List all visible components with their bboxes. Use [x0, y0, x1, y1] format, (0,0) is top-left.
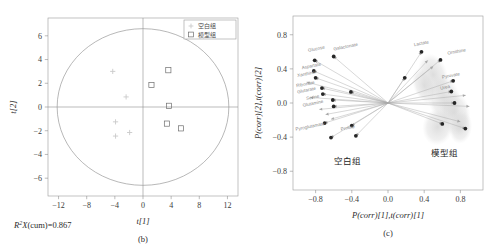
x-tick-label: 8 — [197, 201, 201, 210]
loading-point — [329, 136, 333, 140]
panel-caption: (b) — [138, 234, 148, 244]
legend-entry-label: 模型组 — [198, 31, 216, 39]
metabolite-label: Ornithine — [447, 47, 467, 56]
loading-point — [321, 92, 325, 96]
loading-arrow-extra — [388, 78, 405, 103]
metabolite-label: Glutamine — [302, 99, 324, 108]
data-point-model — [178, 126, 183, 131]
x-axis-label-text: P(corr)[1],t(corr)[1] — [351, 210, 424, 220]
metabolite-label: Aspartate — [301, 62, 322, 71]
y-tick-label: 2 — [38, 79, 42, 88]
loading-point — [349, 90, 353, 94]
x-tick-label: −4 — [111, 201, 120, 210]
data-point-control — [110, 69, 115, 74]
metabolite-label: Lactate — [413, 39, 429, 47]
x-tick-label: −8 — [82, 201, 91, 210]
data-point-model — [149, 82, 154, 87]
data-point-control — [127, 130, 132, 135]
r2x-annotation: R2X(cum)=0.867 — [13, 220, 72, 230]
y-tick-label: 4 — [38, 55, 42, 64]
y-axis-label: t[2] — [8, 100, 18, 113]
data-point-model — [164, 121, 169, 126]
figure-root: −12−8−404812−6−4−20246t[1]t[2]R2X(cum)=0… — [0, 0, 494, 251]
x-axis-label: P(corr)[1],t(corr)[1] — [351, 210, 424, 220]
loading-point — [451, 79, 455, 83]
panel-b-svg: −12−8−404812−6−4−20246t[1]t[2]R2X(cum)=0… — [0, 0, 247, 251]
metabolite-label: Proline — [340, 124, 355, 132]
x-tick-label: −0.4 — [345, 195, 360, 204]
legend-entry-label: 空白组 — [198, 22, 216, 30]
x-tick-label: −12 — [52, 201, 65, 210]
arrow-head — [319, 108, 322, 111]
group-annotation: 模型组 — [431, 148, 458, 158]
loading-point — [463, 127, 467, 131]
y-tick-label: −0.4 — [272, 133, 287, 142]
r2x-value: (cum)=0.867 — [27, 220, 71, 230]
panel-c-loadings-plot: −0.8−0.40.00.40.8−0.8−0.40.00.40.8Glucos… — [247, 0, 494, 251]
panel-caption: (c) — [383, 228, 393, 238]
arrow-head — [331, 117, 334, 120]
loading-point — [449, 90, 453, 94]
loading-point — [439, 58, 443, 62]
y-tick-label: −0.8 — [272, 167, 287, 176]
metabolite-label: Pyroglutamate — [295, 121, 325, 132]
loading-point — [320, 86, 324, 90]
metabolite-label: Glucose — [308, 45, 326, 53]
loading-point — [354, 134, 358, 138]
loading-point — [403, 76, 407, 80]
x-tick-label: −0.8 — [308, 195, 323, 204]
y-tick-label: 0.8 — [277, 31, 287, 40]
y-tick-label: 6 — [38, 32, 42, 41]
panel-b-scores-plot: −12−8−404812−6−4−20246t[1]t[2]R2X(cum)=0… — [0, 0, 247, 251]
data-point-model — [166, 103, 171, 108]
panel-c-svg: −0.8−0.40.00.40.8−0.8−0.40.00.40.8Glucos… — [247, 0, 494, 251]
y-axis-label: P(corr)[2],t(corr)[2] — [253, 67, 263, 140]
x-tick-label: 0.0 — [383, 195, 393, 204]
y-tick-label: −6 — [33, 174, 42, 183]
group-annotation: 空白组 — [334, 156, 361, 166]
data-point-control — [113, 133, 118, 138]
x-axis-label: t[1] — [136, 216, 149, 226]
arrow-head — [326, 112, 329, 115]
x-tick-label: 0.8 — [455, 195, 465, 204]
metabolite-label: Galactonate — [333, 42, 359, 52]
loading-arrow — [315, 60, 388, 103]
loading-point — [332, 55, 336, 59]
y-axis-label-text: P(corr)[2],t(corr)[2] — [253, 67, 263, 140]
data-point-control — [124, 94, 129, 99]
y-tick-label: −2 — [33, 127, 42, 136]
data-point-control — [113, 119, 118, 124]
y-tick-label: −4 — [33, 150, 42, 159]
loading-point — [420, 50, 424, 54]
y-tick-label: 0.0 — [277, 99, 287, 108]
loading-point — [332, 105, 336, 109]
x-tick-label: 12 — [223, 201, 231, 210]
y-tick-label: 0 — [38, 103, 42, 112]
metabolite-label: Xanthine — [297, 70, 316, 78]
x-tick-label: 4 — [169, 201, 173, 210]
data-point-model — [166, 68, 171, 73]
loading-point — [440, 122, 444, 126]
loading-point — [331, 98, 335, 102]
x-tick-label: 0.4 — [419, 195, 429, 204]
loading-point — [314, 76, 318, 80]
x-tick-label: 0 — [141, 201, 145, 210]
y-tick-label: 0.4 — [277, 65, 287, 74]
loading-point — [453, 101, 457, 105]
